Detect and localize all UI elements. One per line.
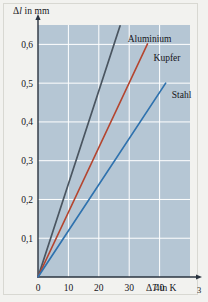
x-tick-label-0: 0 [36, 283, 41, 293]
chart-plot-area: 0,10,20,30,40,50,6 010203040 AluminiumKu… [0, 0, 208, 302]
x-tick-label-1: 10 [64, 283, 74, 293]
x-axis-arrowhead [196, 274, 202, 279]
x-axis-tick-labels: 010203040 [36, 283, 165, 293]
x-tick-label-4: 40 [155, 283, 165, 293]
y-axis-tick-labels: 0,10,20,30,40,50,6 [21, 40, 33, 244]
y-tick-label-4: 0,5 [21, 79, 33, 89]
y-tick-label-0: 0,1 [21, 234, 33, 244]
series-label-kupfer: Kupfer [154, 53, 182, 63]
y-tick-label-1: 0,2 [21, 195, 33, 205]
x-tick-label-2: 20 [94, 283, 104, 293]
y-axis-arrowhead [35, 14, 40, 20]
x-tick-label-3: 30 [124, 283, 134, 293]
figure-thermal-expansion: Δl in mm ΔT in K 3 0,10,20,30,40,50,6 01… [0, 0, 208, 302]
series-label-aluminium: Aluminium [128, 34, 172, 44]
y-tick-label-2: 0,3 [21, 156, 33, 166]
y-tick-label-3: 0,4 [21, 117, 33, 127]
page-background: Δl in mm ΔT in K 3 0,10,20,30,40,50,6 01… [0, 0, 208, 302]
series-label-stahl: Stahl [172, 90, 192, 100]
y-tick-label-5: 0,6 [21, 40, 33, 50]
